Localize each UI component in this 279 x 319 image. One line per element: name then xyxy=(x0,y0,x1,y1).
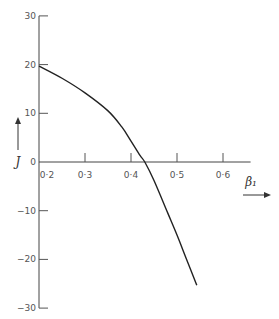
y-arrowhead-icon xyxy=(15,117,21,124)
y-tick-label: 0 xyxy=(30,157,36,167)
x-tick-label: 0·3 xyxy=(78,170,92,180)
x-axis-title: β₁ xyxy=(244,175,257,189)
x-tick-label: 0·2 xyxy=(40,170,54,180)
y-axis-title: J xyxy=(13,155,22,169)
y-tick-label: 30 xyxy=(25,11,37,21)
x-arrowhead-icon xyxy=(264,192,271,198)
x-tick-label: 0·5 xyxy=(170,170,184,180)
y-tick-label: −20 xyxy=(17,254,36,264)
y-tick-label: 20 xyxy=(25,60,37,70)
line-chart: 3020100−10−20−300·20·30·40·50·6 Jβ₁ xyxy=(0,0,279,319)
x-tick-label: 0·6 xyxy=(216,170,231,180)
chart-container: 3020100−10−20−300·20·30·40·50·6 Jβ₁ xyxy=(0,0,279,319)
y-tick-label: −30 xyxy=(17,303,36,313)
y-tick-label: −10 xyxy=(17,206,36,216)
x-tick-label: 0·4 xyxy=(124,170,139,180)
y-tick-label: 10 xyxy=(25,108,37,118)
